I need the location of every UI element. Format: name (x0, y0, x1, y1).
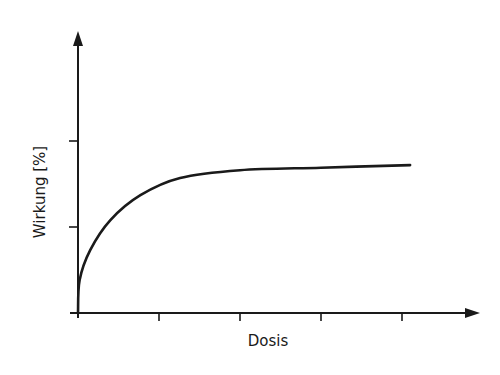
dose-response-chart: Dosis Wirkung [%] (0, 0, 500, 375)
dose-response-curve (78, 165, 410, 313)
x-ticks (159, 313, 402, 321)
x-axis-label: Dosis (248, 332, 289, 350)
x-axis-arrow-icon (465, 308, 480, 318)
y-axis-label: Wirkung [%] (31, 146, 49, 238)
y-axis-arrow-icon (73, 31, 83, 46)
y-ticks (69, 141, 78, 227)
